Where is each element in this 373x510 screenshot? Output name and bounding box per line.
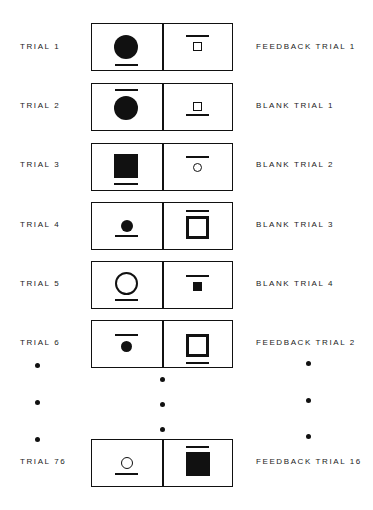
ellipsis-dot-left-3 bbox=[35, 437, 40, 442]
box-divider bbox=[162, 24, 164, 70]
trial-label-5: TRIAL 5 bbox=[20, 279, 60, 289]
overline-mark bbox=[115, 89, 138, 91]
trial-label-2: TRIAL 2 bbox=[20, 101, 60, 111]
large-outline-circle-icon bbox=[115, 272, 138, 295]
large-outline-square-icon bbox=[186, 216, 209, 239]
underline-mark bbox=[115, 299, 138, 301]
small-filled-square-icon bbox=[193, 282, 202, 291]
trial-box-4 bbox=[91, 202, 233, 250]
ellipsis-dot-right-3 bbox=[306, 434, 311, 439]
ellipsis-dot-left-2 bbox=[35, 400, 40, 405]
small-filled-circle-icon bbox=[121, 220, 133, 232]
outcome-label-16: FEEDBACK TRIAL 16 bbox=[256, 457, 362, 467]
box-divider bbox=[162, 203, 164, 249]
ellipsis-dot-right-1 bbox=[306, 361, 311, 366]
trial-box-1 bbox=[91, 23, 233, 71]
overline-mark bbox=[186, 35, 209, 37]
ellipsis-dot-center-2 bbox=[160, 402, 165, 407]
underline-mark bbox=[186, 362, 209, 364]
overline-mark bbox=[115, 334, 138, 336]
trial-label-3: TRIAL 3 bbox=[20, 160, 60, 170]
trial-label-4: TRIAL 4 bbox=[20, 220, 60, 230]
small-outline-circle-icon bbox=[193, 163, 202, 172]
ellipsis-dot-center-3 bbox=[160, 427, 165, 432]
trial-box-5 bbox=[91, 261, 233, 309]
large-filled-square-icon bbox=[114, 154, 138, 178]
trial-label-1: TRIAL 1 bbox=[20, 42, 60, 52]
overline-mark bbox=[186, 446, 209, 448]
small-outline-square-icon bbox=[193, 102, 202, 111]
outcome-label-2: BLANK TRIAL 1 bbox=[256, 101, 334, 111]
underline-mark bbox=[115, 64, 138, 66]
underline-mark bbox=[115, 235, 138, 237]
large-filled-square-icon bbox=[186, 452, 210, 476]
small-filled-circle-icon bbox=[121, 341, 132, 352]
ellipsis-dot-left-1 bbox=[35, 363, 40, 368]
outcome-label-6: FEEDBACK TRIAL 2 bbox=[256, 338, 356, 348]
ellipsis-dot-right-2 bbox=[306, 398, 311, 403]
trial-box-6 bbox=[91, 320, 233, 368]
overline-mark bbox=[186, 275, 209, 277]
trial-box-2 bbox=[91, 83, 233, 131]
small-outline-square-icon bbox=[193, 42, 202, 51]
outcome-label-5: BLANK TRIAL 4 bbox=[256, 279, 334, 289]
trial-label-6: TRIAL 6 bbox=[20, 338, 60, 348]
box-divider bbox=[162, 262, 164, 308]
box-divider bbox=[162, 440, 164, 486]
box-divider bbox=[162, 321, 164, 367]
large-filled-circle-icon bbox=[114, 35, 138, 59]
box-divider bbox=[162, 84, 164, 130]
outcome-label-3: BLANK TRIAL 2 bbox=[256, 160, 334, 170]
ellipsis-dot-center-1 bbox=[160, 377, 165, 382]
large-filled-circle-icon bbox=[114, 96, 138, 120]
large-outline-square-icon bbox=[186, 334, 209, 357]
trial-box-76 bbox=[91, 439, 233, 487]
small-outline-circle-icon bbox=[121, 457, 133, 469]
trial-label-76: TRIAL 76 bbox=[20, 457, 66, 467]
overline-mark bbox=[186, 156, 209, 158]
underline-mark bbox=[115, 473, 138, 475]
outcome-label-4: BLANK TRIAL 3 bbox=[256, 220, 334, 230]
overline-mark bbox=[186, 210, 209, 212]
underline-mark bbox=[114, 183, 138, 185]
box-divider bbox=[162, 144, 164, 190]
underline-mark bbox=[186, 114, 209, 116]
trial-box-3 bbox=[91, 143, 233, 191]
outcome-label-1: FEEDBACK TRIAL 1 bbox=[256, 42, 356, 52]
